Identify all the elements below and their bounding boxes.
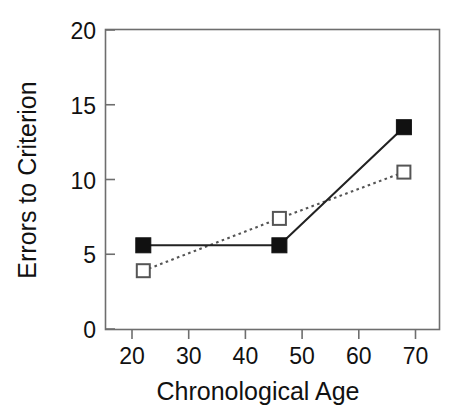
data-point-filled-square: [272, 238, 287, 253]
plot-frame: [106, 30, 440, 330]
data-point-open-square: [273, 212, 286, 225]
x-axis-title: Chronological Age: [157, 377, 360, 405]
y-tick-label-5: 5: [83, 242, 96, 268]
data-point-filled-square: [136, 238, 151, 253]
y-tick-label-10: 10: [70, 168, 96, 194]
y-tick-label-0: 0: [83, 317, 96, 343]
y-tick-label-15: 15: [70, 93, 96, 119]
x-tick-label-20: 20: [119, 343, 145, 369]
x-tick-label-70: 70: [403, 343, 429, 369]
y-tick-label-20: 20: [70, 18, 96, 44]
chart-container: 20 15 10 5 0 20 30 40 50 60 70 Chronolog…: [0, 0, 465, 418]
x-tick-label-30: 30: [176, 343, 202, 369]
x-axis-ticks: [132, 330, 416, 340]
x-tick-label-60: 60: [346, 343, 372, 369]
data-point-open-square: [397, 166, 410, 179]
data-point-filled-square: [396, 120, 411, 135]
x-tick-label-40: 40: [233, 343, 259, 369]
line-chart: 20 15 10 5 0 20 30 40 50 60 70 Chronolog…: [0, 0, 465, 418]
data-point-open-square: [137, 264, 150, 277]
x-tick-label-50: 50: [289, 343, 315, 369]
y-axis-title: Errors to Criterion: [13, 81, 41, 278]
